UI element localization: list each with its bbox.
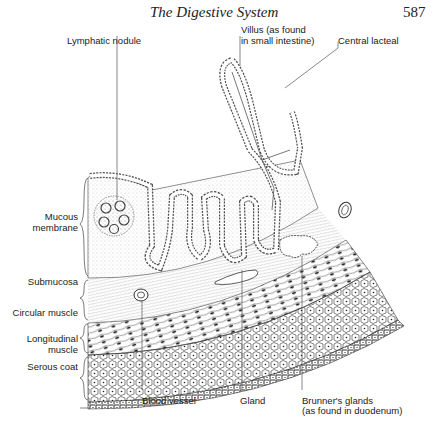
layer-braces [80, 178, 88, 400]
blood-vessel-upper [337, 200, 354, 219]
label-serous-coat: Serous coat [27, 362, 78, 373]
label-mucous-line1: Mucous [45, 212, 78, 223]
lymphatic-nodule [94, 196, 134, 236]
label-brunners-line2: (as found in duodenum) [302, 406, 402, 417]
label-circular-muscle: Circular muscle [13, 308, 78, 319]
label-gland: Gland [240, 396, 265, 407]
label-blood-vessel: Blood vessel [142, 396, 196, 407]
label-central-lacteal: Central lacteal [338, 36, 399, 47]
label-submucosa: Submucosa [28, 277, 78, 288]
label-villus-line2: in small intestine) [241, 36, 314, 47]
label-villus-line1: Villus (as found [241, 25, 306, 36]
label-longitudinal-line1: Longitudinal [27, 334, 78, 345]
blood-vessel [134, 289, 148, 301]
label-longitudinal-line2: muscle [48, 345, 78, 356]
label-lymphatic-nodule: Lymphatic nodule [67, 36, 141, 47]
label-mucous-line2: membrane [33, 223, 78, 234]
